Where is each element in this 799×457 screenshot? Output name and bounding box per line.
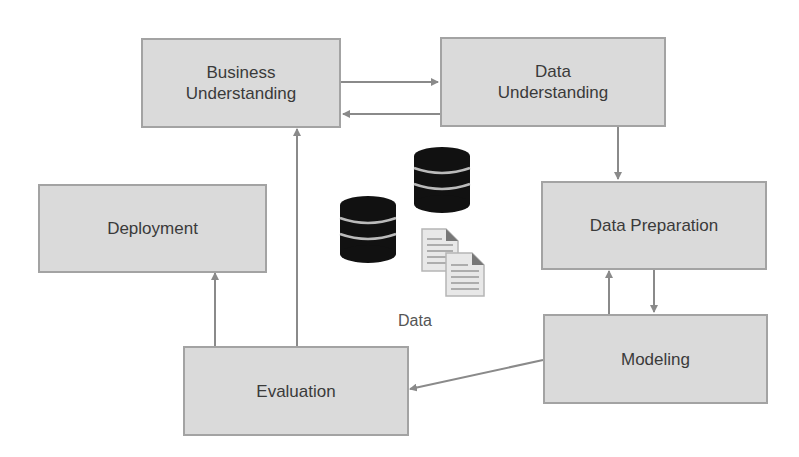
database-icon — [339, 195, 397, 264]
node-deployment: Deployment — [38, 184, 267, 273]
node-label: Deployment — [107, 218, 198, 239]
node-evaluation: Evaluation — [183, 346, 409, 436]
document-icon — [444, 251, 486, 298]
data-label: Data — [398, 312, 432, 330]
node-label: Data Preparation — [590, 215, 719, 236]
node-label: Modeling — [621, 349, 690, 370]
node-modeling: Modeling — [543, 314, 768, 404]
node-data-understanding: Data Understanding — [440, 37, 666, 127]
node-label: Data — [498, 61, 609, 82]
node-label: Evaluation — [256, 381, 335, 402]
node-data-preparation: Data Preparation — [541, 181, 767, 270]
node-label: Business — [186, 62, 297, 83]
node-business-understanding: Business Understanding — [141, 38, 341, 128]
arrow-modeling-to-evaluation — [410, 360, 543, 389]
database-icon — [413, 146, 471, 214]
node-label: Understanding — [498, 82, 609, 103]
node-label: Understanding — [186, 83, 297, 104]
